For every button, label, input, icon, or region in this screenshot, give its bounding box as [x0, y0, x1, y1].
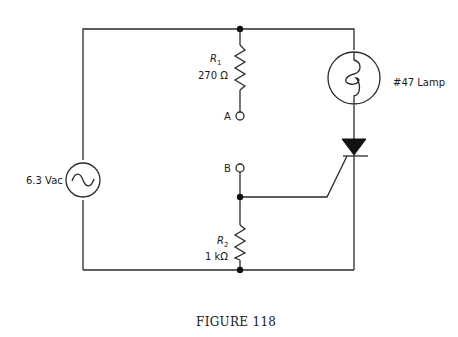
r1-value: 270 Ω: [198, 70, 228, 81]
junction-gate: [237, 194, 243, 200]
terminal-a[interactable]: [236, 112, 244, 120]
r2-value: 1 kΩ: [205, 251, 228, 262]
scr-icon: [342, 139, 368, 156]
lamp-label: #47 Lamp: [393, 77, 445, 88]
ac-source-icon: [66, 163, 100, 197]
circuit-diagram: R1 270 Ω A B R2 1 kΩ 6.3 Vac #47 Lamp FI…: [0, 0, 458, 337]
resistor-r1: [235, 45, 245, 90]
terminal-a-label: A: [224, 111, 231, 122]
source-label: 6.3 Vac: [26, 175, 63, 186]
terminal-b-label: B: [224, 163, 231, 174]
junction-top: [237, 26, 243, 32]
resistor-r2: [235, 225, 245, 260]
lamp-icon: [328, 52, 380, 104]
terminal-b[interactable]: [236, 164, 244, 172]
figure-caption: FIGURE 118: [196, 315, 276, 329]
junction-bottom: [237, 267, 243, 273]
r1-name: R1: [210, 53, 221, 67]
r2-name: R2: [217, 235, 228, 249]
